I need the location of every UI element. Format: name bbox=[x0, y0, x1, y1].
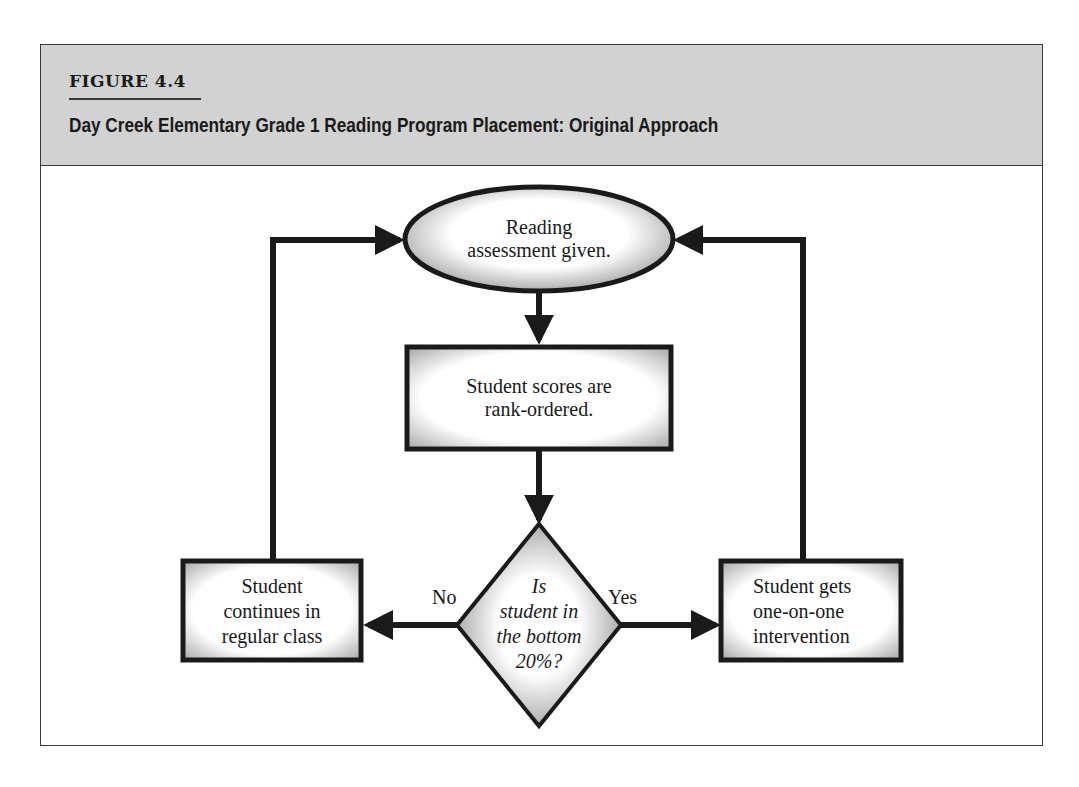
yes-edge-label: Yes bbox=[608, 586, 637, 609]
decision-line-4: 20%? bbox=[516, 649, 563, 674]
decision-node-text: Is student in the bottom 20%? bbox=[470, 572, 608, 676]
rank-node-text: Student scores are rank-ordered. bbox=[407, 370, 671, 426]
start-line-1: Reading bbox=[506, 216, 573, 239]
regular-line-2: continues in bbox=[223, 599, 320, 624]
intervention-line-1: Student gets bbox=[753, 574, 851, 599]
regular-line-3: regular class bbox=[222, 624, 323, 649]
intervention-line-3: intervention bbox=[753, 624, 850, 649]
edge-regular-loop bbox=[273, 240, 400, 560]
rank-line-2: rank-ordered. bbox=[485, 398, 593, 421]
start-line-2: assessment given. bbox=[467, 239, 610, 262]
regular-node-text: Student continues in regular class bbox=[183, 570, 361, 652]
edge-intervention-loop bbox=[678, 240, 803, 560]
rank-line-1: Student scores are bbox=[466, 375, 612, 398]
decision-line-3: the bottom bbox=[497, 624, 582, 649]
no-edge-label: No bbox=[432, 586, 456, 609]
regular-line-1: Student bbox=[241, 574, 302, 599]
start-node-text: Reading assessment given. bbox=[405, 205, 673, 273]
intervention-node-text: Student gets one-on-one intervention bbox=[753, 570, 903, 652]
decision-line-2: student in bbox=[500, 599, 578, 624]
intervention-line-2: one-on-one bbox=[753, 599, 844, 624]
decision-line-1: Is bbox=[532, 574, 546, 599]
